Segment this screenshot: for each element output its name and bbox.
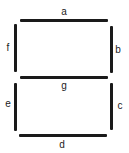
segment-label-d: d (59, 140, 65, 150)
segment-b (110, 26, 113, 73)
segment-d (19, 134, 107, 137)
segment-f (14, 24, 17, 72)
segment-g (20, 76, 108, 79)
segment-label-b: b (115, 45, 121, 55)
segment-label-e: e (5, 99, 11, 109)
segment-c (110, 83, 113, 130)
segment-label-g: g (61, 81, 67, 91)
segment-label-c: c (118, 101, 123, 111)
segment-e (14, 83, 17, 131)
segment-a (20, 19, 108, 22)
segment-label-f: f (7, 43, 10, 53)
segment-label-a: a (61, 7, 67, 17)
